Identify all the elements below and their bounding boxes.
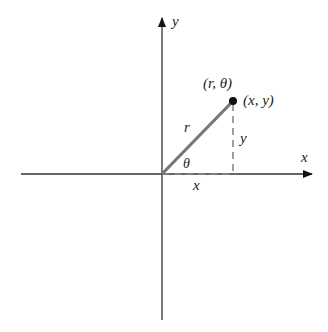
- point-marker: [229, 97, 237, 105]
- polar-coordinates-diagram: y x (r, θ) (x, y) r θ y x: [0, 0, 328, 332]
- x-axis-label: x: [300, 149, 308, 165]
- y-axis-label: y: [170, 13, 179, 29]
- angle-label: θ: [183, 156, 190, 171]
- radius-label: r: [184, 119, 190, 135]
- horizontal-leg-label: x: [192, 177, 200, 193]
- rect-point-label: (x, y): [243, 92, 274, 109]
- vertical-leg-label: y: [238, 130, 247, 146]
- radius-line: [162, 101, 233, 174]
- polar-point-label: (r, θ): [203, 75, 232, 92]
